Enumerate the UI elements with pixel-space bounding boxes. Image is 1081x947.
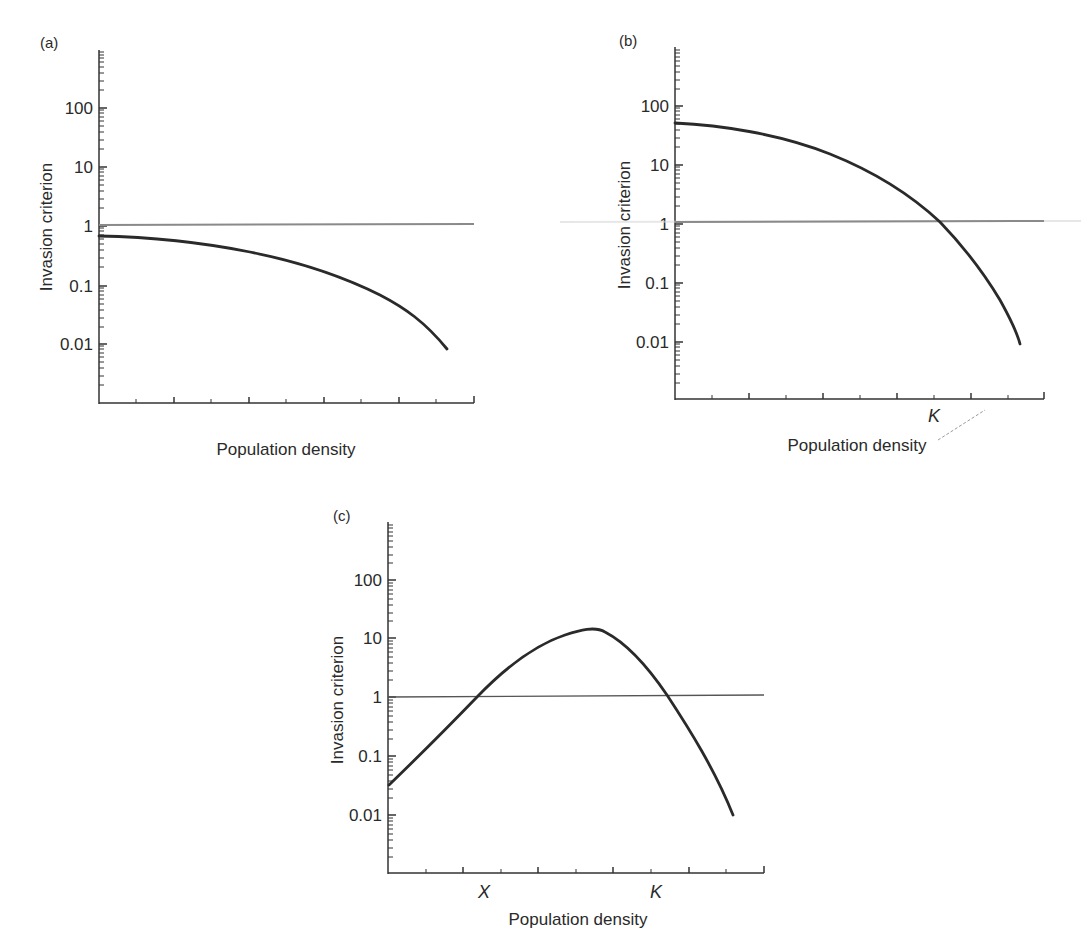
y-tick-100: 100 [65, 99, 93, 118]
y-tick-1: 1 [84, 217, 93, 236]
panel-c-curve [389, 629, 733, 815]
panel-c-marker-x: X [477, 882, 491, 902]
panel-b-marker-k: K [928, 406, 941, 426]
y-tick-10: 10 [74, 158, 93, 177]
panel-c-y-tick-labels: 100 10 1 0.1 0.01 [349, 571, 382, 825]
panel-c-y-axis [388, 522, 396, 874]
panel-c-x-axis [388, 866, 764, 873]
panel-c-reference-line [388, 695, 764, 697]
y-tick-0.1: 0.1 [358, 747, 382, 766]
panel-a-y-tick-labels: 100 10 1 0.1 0.01 [60, 99, 93, 354]
y-tick-0.01: 0.01 [636, 333, 669, 352]
y-tick-0.1: 0.1 [645, 274, 669, 293]
panel-c-y-axis-label: Invasion criterion [328, 636, 347, 765]
panel-a-y-axis-label: Invasion criterion [37, 163, 56, 292]
y-tick-0.01: 0.01 [349, 806, 382, 825]
y-tick-1: 1 [660, 215, 669, 234]
panel-a-reference-line [99, 224, 474, 225]
panel-a-label: (a) [40, 34, 58, 51]
panel-b-x-axis-label: Population density [788, 436, 927, 455]
y-tick-100: 100 [354, 571, 382, 590]
panel-b-y-axis [675, 47, 683, 400]
panel-c-label: (c) [333, 507, 351, 524]
y-tick-100: 100 [641, 97, 669, 116]
panel-a-x-axis-label: Population density [217, 440, 356, 459]
figure: (a) 100 10 1 0.1 0.01 Invasion criterion [0, 0, 1081, 947]
panel-b-curve [675, 123, 1020, 344]
panel-c: (c) 100 10 1 0.1 0.01 Invasion criterion [328, 507, 764, 929]
panel-b-reference-line [675, 221, 1044, 222]
panel-b-x-axis [675, 392, 1044, 399]
panel-c-marker-k: K [650, 882, 663, 902]
panel-c-x-axis-label: Population density [509, 910, 648, 929]
y-tick-0.01: 0.01 [60, 335, 93, 354]
panel-a-y-axis [99, 50, 107, 404]
y-tick-10: 10 [363, 629, 382, 648]
panel-b-pencil-mark [938, 410, 985, 440]
panel-b-label: (b) [619, 32, 637, 49]
y-tick-10: 10 [650, 156, 669, 175]
panel-a-curve [99, 236, 447, 349]
panel-a: (a) 100 10 1 0.1 0.01 Invasion criterion [37, 34, 474, 459]
y-tick-0.1: 0.1 [69, 277, 93, 296]
y-tick-1: 1 [373, 688, 382, 707]
panel-a-x-axis [99, 396, 474, 403]
panel-b-y-tick-labels: 100 10 1 0.1 0.01 [636, 97, 669, 352]
panel-b-y-axis-label: Invasion criterion [615, 161, 634, 290]
panel-b: (b) 100 10 1 0.1 0.01 Invasion criterion [560, 32, 1081, 455]
